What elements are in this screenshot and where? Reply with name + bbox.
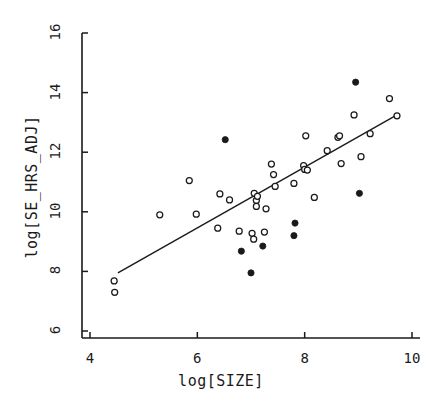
scatter-plot-figure: log[SE_HRS_ADJ] log[SIZE] 68101214164681… (0, 0, 442, 408)
x-tick-label-4: 4 (79, 350, 101, 366)
y-tick-label-8: 8 (47, 259, 63, 281)
y-tick-label-14: 14 (47, 81, 63, 103)
data-points (111, 79, 400, 295)
y-tick-label-6: 6 (47, 319, 63, 341)
axes (82, 33, 420, 338)
plot-canvas (0, 0, 442, 408)
y-tick-label-10: 10 (47, 200, 63, 222)
x-tick-label-10: 10 (401, 350, 423, 366)
x-axis-label: log[SIZE] (0, 372, 442, 390)
y-tick-label-16: 16 (47, 21, 63, 43)
x-tick-label-8: 8 (294, 350, 316, 366)
x-tick-label-6: 6 (186, 350, 208, 366)
y-axis-label: log[SE_HRS_ADJ] (23, 77, 41, 297)
y-tick-label-12: 12 (47, 140, 63, 162)
